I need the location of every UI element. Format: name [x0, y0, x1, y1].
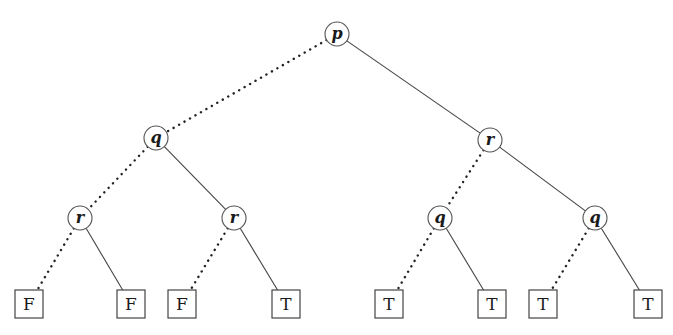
decision-node-r: r: [478, 128, 502, 152]
false-edge: [88, 147, 147, 210]
decision-node-p: p: [325, 22, 349, 46]
decision-node-r: r: [222, 206, 246, 230]
terminal-leaf-T: T: [529, 290, 557, 318]
false-edge: [397, 228, 434, 290]
false-edge: [37, 228, 74, 290]
node-variable-label: q: [150, 128, 161, 147]
leaf-value-label: T: [383, 294, 395, 314]
leaves-layer: FFFTTTTT: [15, 290, 662, 318]
leaf-value-label: T: [486, 294, 498, 314]
terminal-leaf-T: T: [375, 290, 403, 318]
false-edge: [166, 40, 326, 132]
edges-layer: [37, 40, 639, 290]
leaf-value-label: T: [537, 294, 549, 314]
true-edge: [347, 41, 480, 133]
decision-node-q: q: [583, 206, 607, 230]
false-edge: [446, 150, 483, 208]
nodes-layer: pqrrrqq: [68, 22, 607, 230]
false-edge: [190, 228, 227, 290]
leaf-value-label: F: [176, 294, 188, 314]
true-edge: [446, 228, 483, 290]
true-edge: [240, 228, 277, 290]
terminal-leaf-F: F: [168, 290, 196, 318]
true-edge: [86, 228, 123, 290]
decision-node-q: q: [144, 126, 168, 150]
terminal-leaf-T: T: [272, 290, 300, 318]
terminal-leaf-F: F: [15, 290, 43, 318]
terminal-leaf-T: T: [478, 290, 506, 318]
terminal-leaf-F: F: [117, 290, 145, 318]
node-variable-label: p: [331, 24, 342, 43]
true-edge: [500, 147, 586, 211]
decision-node-q: q: [428, 206, 452, 230]
false-edge: [551, 228, 588, 290]
node-variable-label: q: [589, 208, 600, 227]
leaf-value-label: F: [125, 294, 137, 314]
decision-node-r: r: [68, 206, 92, 230]
true-edge: [601, 228, 639, 290]
true-edge: [164, 147, 225, 210]
terminal-leaf-T: T: [634, 290, 662, 318]
leaf-value-label: F: [23, 294, 35, 314]
binary-decision-tree: pqrrrqq FFFTTTTT: [0, 0, 673, 335]
leaf-value-label: T: [642, 294, 654, 314]
node-variable-label: q: [434, 208, 445, 227]
leaf-value-label: T: [280, 294, 292, 314]
